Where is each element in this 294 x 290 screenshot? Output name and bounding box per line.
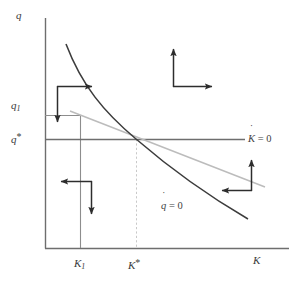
up-right-arrow-pair (173, 49, 212, 87)
Kdot-zero-label-variable: K̇ (248, 134, 255, 145)
Kdot-zero-label: K̇ = 0 (248, 134, 271, 145)
qdot-zero-label-main: q (161, 200, 166, 211)
x-tick-label-K1: K1 (74, 258, 85, 271)
qdot-zero-label-variable: q̇ (161, 201, 166, 212)
y-axis-label: q (16, 10, 22, 21)
qdot-zero-curve (66, 44, 248, 219)
phase-diagram-figure: q q1 q* K1 K* K K̇ = 0 q̇ = 0 (0, 0, 294, 290)
qdot-zero-label: q̇ = 0 (161, 201, 183, 212)
qdot-zero-locus (66, 44, 248, 219)
x-tick-label-Kstar: K* (128, 258, 140, 271)
x-tick-K1-subscript: 1 (81, 262, 85, 271)
left-down-arrow-pair (61, 181, 92, 214)
y-tick-label-qstar: q* (11, 132, 22, 145)
y-tick-qstar-asterisk: * (17, 131, 22, 142)
qdot-zero-label-equals: = 0 (166, 200, 182, 211)
x-axis-label: K (253, 255, 260, 266)
x-tick-Kstar-asterisk: * (135, 257, 140, 268)
saddle-path-line (70, 111, 265, 187)
y-tick-q1-subscript: 1 (17, 104, 21, 113)
saddle-path-locus (70, 111, 265, 187)
Kdot-zero-label-main: K (248, 133, 255, 144)
Kdot-zero-label-equals: = 0 (255, 133, 271, 144)
phase-diagram-canvas (0, 0, 294, 290)
y-tick-label-q1: q1 (11, 100, 21, 113)
right-down-arrow-pair (57, 86, 92, 122)
